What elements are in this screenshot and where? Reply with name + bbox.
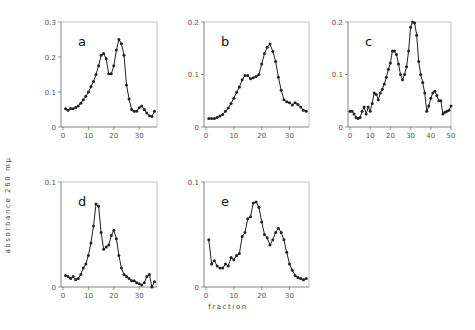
data-point xyxy=(82,98,85,101)
data-point xyxy=(351,110,354,113)
x-tick-label: 10 xyxy=(84,132,93,140)
data-point xyxy=(125,275,128,278)
data-point xyxy=(97,205,100,208)
data-point xyxy=(439,99,442,102)
data-point xyxy=(429,97,432,100)
data-point xyxy=(359,116,362,119)
x-tick-label: 10 xyxy=(229,132,238,140)
data-point xyxy=(69,277,72,280)
data-point xyxy=(92,225,95,228)
x-tick-label: 30 xyxy=(135,132,144,140)
data-point xyxy=(243,231,246,234)
data-point xyxy=(120,267,123,270)
data-point xyxy=(243,74,246,77)
data-point xyxy=(269,43,272,46)
data-point xyxy=(74,106,77,109)
data-point xyxy=(381,88,384,91)
data-point xyxy=(260,63,263,66)
panel-letter: b xyxy=(221,34,229,49)
y-tick-label: 0 xyxy=(195,284,199,292)
data-point xyxy=(291,269,294,272)
data-point xyxy=(375,93,378,96)
data-point xyxy=(246,217,249,220)
data-point xyxy=(72,275,75,278)
data-point xyxy=(145,275,148,278)
data-point xyxy=(277,76,280,79)
data-point xyxy=(277,227,280,230)
data-point xyxy=(271,238,274,241)
data-point xyxy=(122,273,125,276)
data-point xyxy=(255,75,258,78)
data-point xyxy=(260,220,263,223)
data-point xyxy=(148,114,151,117)
y-tick-label: 0.1 xyxy=(188,71,199,79)
data-point xyxy=(269,244,272,247)
panel-letter: d xyxy=(78,194,86,209)
data-point xyxy=(95,203,98,206)
data-point xyxy=(385,76,388,79)
panel-letter: e xyxy=(221,194,229,209)
y-tick-label: 0 xyxy=(339,124,343,132)
data-point xyxy=(150,115,153,118)
data-point xyxy=(419,73,422,76)
data-point xyxy=(130,108,133,111)
data-point xyxy=(150,286,153,289)
data-point xyxy=(266,46,269,49)
data-point xyxy=(367,106,370,109)
data-point xyxy=(216,116,219,119)
data-point xyxy=(235,91,238,94)
data-point xyxy=(122,54,125,57)
data-point xyxy=(387,68,390,71)
y-tick-label: 0 xyxy=(52,284,56,292)
data-point xyxy=(207,117,210,120)
data-point xyxy=(224,110,227,113)
x-tick-label: 30 xyxy=(285,292,294,300)
data-point xyxy=(138,106,141,109)
data-point xyxy=(288,262,291,265)
x-tick-label: 20 xyxy=(109,292,118,300)
data-point xyxy=(299,106,302,109)
data-point xyxy=(450,105,453,108)
data-point xyxy=(230,102,233,105)
y-tick-label: 0 xyxy=(195,124,199,132)
data-point xyxy=(435,94,438,97)
data-point xyxy=(87,91,90,94)
data-point xyxy=(371,102,374,105)
panel-letter: c xyxy=(365,34,372,49)
data-point xyxy=(117,38,120,41)
data-point xyxy=(67,109,70,112)
data-point xyxy=(112,64,115,67)
data-point xyxy=(379,91,382,94)
data-point xyxy=(143,281,146,284)
y-tick-label: 0.2 xyxy=(188,19,199,27)
x-tick-label: 20 xyxy=(109,132,118,140)
data-point xyxy=(110,234,113,237)
x-tick-label: 0 xyxy=(61,132,65,140)
data-point xyxy=(447,109,450,112)
y-axis-title: absorbance 260 mμ xyxy=(4,156,12,253)
data-point xyxy=(305,110,308,113)
figure-canvas: 010203000.10.20.3a010203000.10.2b0102030… xyxy=(0,0,475,330)
data-point xyxy=(92,80,95,83)
data-point xyxy=(252,202,255,205)
data-point xyxy=(401,78,404,81)
data-point xyxy=(224,262,227,265)
data-point xyxy=(120,42,123,45)
data-point xyxy=(393,49,396,52)
data-point xyxy=(299,277,302,280)
data-point xyxy=(397,63,400,66)
data-point xyxy=(417,60,420,63)
data-point xyxy=(285,100,288,103)
data-point xyxy=(107,244,110,247)
data-point xyxy=(117,254,120,257)
data-point xyxy=(77,277,80,280)
data-point xyxy=(140,105,143,108)
data-point xyxy=(238,86,241,89)
x-tick-label: 20 xyxy=(386,132,395,140)
data-point xyxy=(353,112,356,115)
data-point xyxy=(296,276,299,279)
data-point xyxy=(67,275,70,278)
x-tick-label: 30 xyxy=(406,132,415,140)
data-point xyxy=(210,117,213,120)
data-point xyxy=(227,265,230,268)
